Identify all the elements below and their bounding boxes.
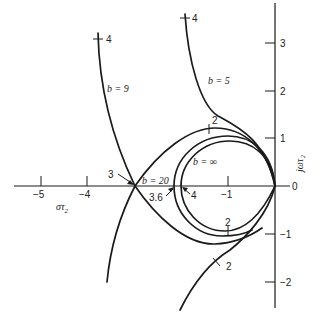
b20-crossing-label: 3.6 [149,192,163,203]
imag-axis-label: jωτ₂ [294,155,305,174]
curve-label-b5: b = 5 [208,75,230,86]
gain-label: 2 [226,261,232,272]
curve-label-b20: b = 20 [142,175,169,186]
imag-tick-label: 2 [280,86,286,97]
locus-b-20: 2 b = 20 [135,115,275,244]
curve-label-b9: b = 9 [107,83,129,94]
imag-tick-label: 1 [280,133,286,144]
curve-label-binf: b = ∞ [193,156,217,167]
locus-b-9: 4 b = 9 [93,33,135,282]
gain-label: 4 [106,34,112,45]
real-tick-label: −5 [33,189,45,200]
root-locus-diagram: −5 −4 −1 στ2 3 2 1 0 −1 −2 jωτ₂ 4 b = 9 … [0,0,323,321]
imag-tick-label: 0 [292,181,298,192]
breakaway-gain-label: 3 [108,169,114,180]
imag-tick-label: −1 [280,229,292,240]
binf-crossing-label: 4 [191,190,197,201]
gain-label: 2 [212,115,218,126]
real-axis-label: στ2 [56,201,69,215]
real-tick-label: −1 [221,189,233,200]
gain-label: 4 [192,13,198,24]
gain-label: 2 [225,217,231,228]
real-tick-label: −4 [79,189,91,200]
imag-tick-label: −2 [280,277,292,288]
imag-tick-label: 3 [280,38,286,49]
